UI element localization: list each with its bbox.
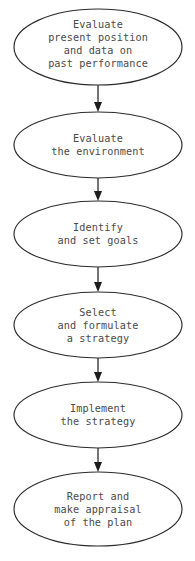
arrow-4-head-icon [94, 372, 102, 382]
node-5-line-2: the strategy [61, 416, 136, 427]
flow-node-evaluate-environment[interactable]: Evaluate the environment [14, 112, 182, 178]
node-5-line-1: Implement [70, 403, 126, 414]
arrow-1-head-icon [94, 102, 102, 112]
node-1-line-4: past performance [48, 58, 148, 69]
node-4-line-1: Select [79, 307, 116, 318]
arrow-1-to-2 [94, 85, 102, 112]
arrow-5-head-icon [94, 462, 102, 472]
node-1-line-3: and data on [64, 45, 133, 56]
flowchart-diagram: Evaluate present position and data on pa… [0, 0, 195, 561]
node-6-line-2: make appraisal [54, 504, 141, 515]
arrow-4-to-5 [94, 358, 102, 382]
arrow-3-head-icon [94, 282, 102, 292]
arrow-3-to-4 [94, 267, 102, 292]
flow-node-identify-and-set-goals[interactable]: Identify and set goals [14, 201, 182, 267]
flow-node-select-and-formulate-strategy[interactable]: Select and formulate a strategy [14, 292, 182, 358]
flow-node-evaluate-present-position[interactable]: Evaluate present position and data on pa… [14, 9, 182, 85]
node-5-ellipse-shape [14, 382, 182, 448]
flow-node-report-and-appraise[interactable]: Report and make appraisal of the plan [14, 472, 182, 546]
node-6-line-1: Report and [67, 491, 129, 502]
node-4-line-3: a strategy [67, 333, 129, 344]
flow-node-implement-the-strategy[interactable]: Implement the strategy [14, 382, 182, 448]
node-3-line-2: and set goals [57, 235, 138, 246]
node-2-line-1: Evaluate [73, 133, 123, 144]
node-2-line-2: the environment [51, 146, 145, 157]
node-4-line-2: and formulate [57, 320, 138, 331]
arrow-2-head-icon [94, 191, 102, 201]
node-6-line-3: of the plan [64, 517, 133, 528]
node-2-ellipse-shape [14, 112, 182, 178]
arrow-5-to-6 [94, 448, 102, 472]
node-3-ellipse-shape [14, 201, 182, 267]
node-3-line-1: Identify [73, 222, 123, 233]
arrow-2-to-3 [94, 178, 102, 201]
node-1-line-2: present position [48, 32, 148, 43]
node-1-line-1: Evaluate [73, 19, 123, 30]
flowchart-canvas: Evaluate present position and data on pa… [0, 0, 195, 561]
